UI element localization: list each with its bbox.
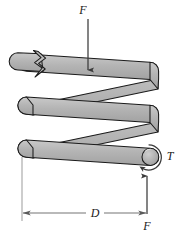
spring-diagram-canvas: F F T D — [0, 0, 182, 235]
force-label-top: F — [78, 3, 87, 17]
diameter-label: D — [90, 206, 100, 220]
force-label-bottom: F — [142, 219, 151, 233]
diameter-dimension — [22, 157, 146, 221]
coil-front-bar-2 — [18, 97, 159, 123]
wire-end-face — [142, 148, 159, 165]
spring-coil-group — [9, 53, 159, 166]
torque-label: T — [167, 149, 175, 163]
spring-figure: F F T D — [0, 0, 182, 235]
coil-front-bar-3 — [18, 140, 159, 166]
